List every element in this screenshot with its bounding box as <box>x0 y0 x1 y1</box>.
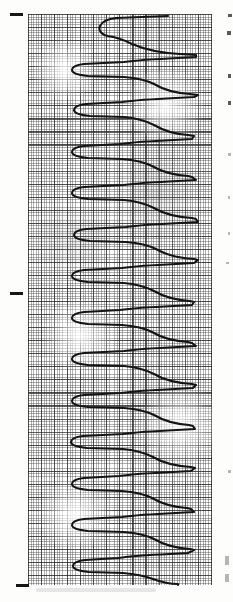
ecg-scan-page <box>0 0 233 602</box>
ecg-waveform-path <box>71 16 198 585</box>
margin-tick <box>227 31 231 35</box>
margin-tick <box>228 232 230 235</box>
calibration-dash-top <box>10 13 23 16</box>
ecg-trace <box>28 14 212 585</box>
margin-tick <box>228 196 230 199</box>
calibration-dash-bottom <box>16 584 29 587</box>
margin-tick <box>228 101 231 105</box>
margin-tick <box>228 14 232 17</box>
margin-tick <box>228 74 231 78</box>
margin-tick <box>225 556 229 565</box>
margin-tick <box>225 574 229 582</box>
scan-smudge-bottom <box>36 588 156 592</box>
margin-tick <box>228 153 231 156</box>
margin-tick <box>228 470 231 473</box>
calibration-dash-middle <box>10 292 23 295</box>
margin-tick <box>226 262 229 264</box>
